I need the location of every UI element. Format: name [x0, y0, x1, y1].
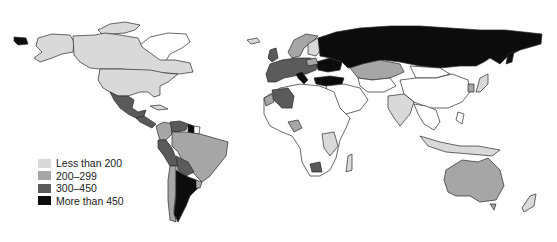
legend-swatch-light-gray [38, 159, 51, 168]
region-philippines [456, 112, 464, 124]
region-madagascar [346, 154, 352, 172]
region-india [388, 94, 414, 126]
region-alaska [34, 34, 74, 62]
region-botswana [310, 162, 322, 172]
region-colombia [156, 122, 172, 140]
region-tasmania [490, 204, 496, 210]
region-chukotka [14, 37, 28, 45]
region-caribbean [150, 105, 168, 110]
region-iceland [247, 38, 260, 44]
legend-item-less-than-200: Less than 200 [38, 157, 124, 169]
legend-item-more-than-450: More than 450 [38, 195, 124, 207]
legend-label: Less than 200 [56, 157, 122, 169]
legend-item-300-450: 300–450 [38, 182, 124, 194]
region-new-zealand [522, 194, 536, 212]
region-central-asia [358, 78, 396, 92]
legend-label: 200–299 [56, 170, 97, 182]
region-venezuela [170, 121, 188, 132]
map-legend: Less than 200 200–299 300–450 More than … [38, 157, 124, 207]
region-uk [268, 48, 278, 62]
region-canadian-arctic [98, 22, 140, 34]
region-australia [444, 158, 504, 202]
legend-label: More than 450 [56, 195, 124, 207]
region-indonesia [420, 136, 500, 156]
region-argentina [174, 170, 198, 222]
legend-item-200-299: 200–299 [38, 170, 124, 182]
region-japan [476, 74, 488, 92]
region-mexico [110, 92, 146, 118]
legend-swatch-dark-gray [38, 184, 51, 193]
legend-swatch-mid-gray [38, 171, 51, 180]
legend-label: 300–450 [56, 182, 97, 194]
region-central-america [136, 116, 156, 128]
region-usa [98, 69, 178, 97]
legend-swatch-black [38, 196, 51, 205]
region-korea [468, 84, 474, 92]
region-suriname [194, 126, 200, 134]
